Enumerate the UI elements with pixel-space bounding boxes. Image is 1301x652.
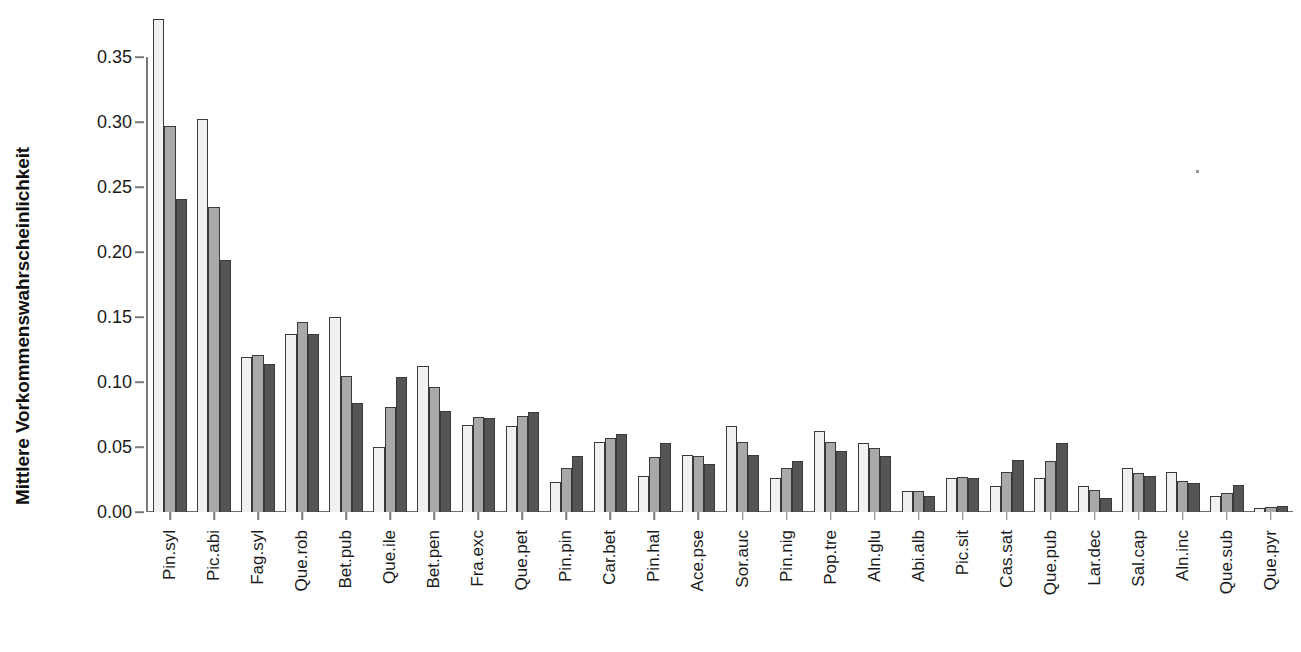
speck-artifact xyxy=(1196,170,1199,173)
bar-series-1 xyxy=(462,425,473,512)
bar-series-2 xyxy=(297,322,308,512)
bar-series-3 xyxy=(1056,443,1067,512)
bar-series-2 xyxy=(781,468,792,512)
x-tick-label: Bet.pub xyxy=(336,530,356,589)
bar-group xyxy=(594,18,628,512)
y-tick-mark xyxy=(135,446,144,448)
x-tick-mark xyxy=(1138,512,1140,520)
bar-group xyxy=(770,18,804,512)
bar-series-1 xyxy=(902,491,913,512)
bar-series-2 xyxy=(737,442,748,512)
x-tick-mark xyxy=(169,512,171,520)
bar-series-3 xyxy=(264,364,275,512)
y-tick-label: 0.15 xyxy=(97,307,132,328)
bar-group xyxy=(638,18,672,512)
bar-series-1 xyxy=(1166,472,1177,512)
y-tick-mark xyxy=(135,251,144,253)
bar-group xyxy=(241,18,275,512)
x-axis-labels: Pin.sylPic.abiFag.sylQue.robBet.pubQue.i… xyxy=(148,512,1293,652)
bar-series-1 xyxy=(1210,496,1221,512)
bar-group xyxy=(902,18,936,512)
y-tick-label: 0.05 xyxy=(97,437,132,458)
bar-series-3 xyxy=(528,412,539,512)
bar-group xyxy=(461,18,495,512)
y-tick-mark xyxy=(135,121,144,123)
x-tick-mark xyxy=(301,512,303,520)
bar-group xyxy=(153,18,187,512)
bar-group xyxy=(506,18,540,512)
bar-group xyxy=(373,18,407,512)
bar-series-2 xyxy=(164,126,175,512)
x-tick-label: Pop.tre xyxy=(821,530,841,585)
x-tick-mark xyxy=(213,512,215,520)
bar-series-3 xyxy=(968,478,979,512)
bar-group xyxy=(990,18,1024,512)
bar-series-1 xyxy=(417,366,428,512)
bar-series-2 xyxy=(1133,473,1144,512)
bar-series-1 xyxy=(241,357,252,512)
y-axis: 0.000.050.100.150.200.250.300.35 xyxy=(96,0,148,652)
bar-series-3 xyxy=(792,461,803,512)
bar-series-2 xyxy=(1045,461,1056,512)
bar-series-3 xyxy=(572,456,583,512)
x-tick-label: Que.rob xyxy=(292,530,312,591)
bar-series-1 xyxy=(329,317,340,512)
bar-series-3 xyxy=(1100,498,1111,512)
x-tick-mark xyxy=(257,512,259,520)
x-tick-label: Bet.pen xyxy=(424,530,444,589)
bar-series-2 xyxy=(605,438,616,512)
bar-group xyxy=(858,18,892,512)
x-tick-mark xyxy=(962,512,964,520)
x-tick-label: Que.sub xyxy=(1217,530,1237,594)
x-tick-mark xyxy=(1006,512,1008,520)
bar-series-3 xyxy=(616,434,627,512)
bar-series-1 xyxy=(373,447,384,512)
x-tick-label: Cas.sat xyxy=(997,530,1017,588)
bar-group xyxy=(814,18,848,512)
bar-series-1 xyxy=(990,486,1001,512)
bar-series-3 xyxy=(748,455,759,512)
x-tick-mark xyxy=(345,512,347,520)
plot-area xyxy=(148,18,1293,512)
x-tick-mark xyxy=(522,512,524,520)
bar-series-3 xyxy=(396,377,407,512)
bar-series-1 xyxy=(946,478,957,512)
bar-series-1 xyxy=(814,431,825,512)
bar-series-3 xyxy=(880,456,891,512)
bar-series-1 xyxy=(770,478,781,512)
x-tick-mark xyxy=(1050,512,1052,520)
x-tick-label: Ace.pse xyxy=(688,530,708,591)
bar-group xyxy=(1034,18,1068,512)
bar-series-3 xyxy=(1144,476,1155,512)
bar-series-3 xyxy=(704,464,715,512)
bar-series-2 xyxy=(473,417,484,512)
bar-series-1 xyxy=(638,476,649,512)
bar-group xyxy=(1254,18,1288,512)
y-tick-mark xyxy=(135,381,144,383)
bar-group xyxy=(1078,18,1112,512)
x-tick-mark xyxy=(1094,512,1096,520)
bar-series-3 xyxy=(1188,483,1199,512)
bar-series-1 xyxy=(1122,468,1133,512)
x-tick-mark xyxy=(698,512,700,520)
x-tick-label: Aln.inc xyxy=(1173,530,1193,581)
x-tick-label: Sal.cap xyxy=(1129,530,1149,587)
x-tick-label: Pin.syl xyxy=(160,530,180,580)
y-axis-title: Mittlere Vorkommenswahrscheinlichkeit xyxy=(0,0,46,652)
bar-group xyxy=(550,18,584,512)
x-tick-mark xyxy=(1226,512,1228,520)
bar-series-2 xyxy=(1001,472,1012,512)
bar-series-2 xyxy=(869,448,880,512)
bar-series-2 xyxy=(913,491,924,512)
bar-series-2 xyxy=(341,376,352,513)
bar-series-2 xyxy=(517,416,528,512)
bar-series-1 xyxy=(197,119,208,512)
bar-series-3 xyxy=(1012,460,1023,512)
x-tick-mark xyxy=(654,512,656,520)
y-tick-label: 0.35 xyxy=(97,47,132,68)
bar-series-2 xyxy=(208,207,219,513)
bar-series-3 xyxy=(660,443,671,512)
x-tick-mark xyxy=(566,512,568,520)
bar-series-3 xyxy=(308,334,319,512)
y-tick-mark xyxy=(135,316,144,318)
